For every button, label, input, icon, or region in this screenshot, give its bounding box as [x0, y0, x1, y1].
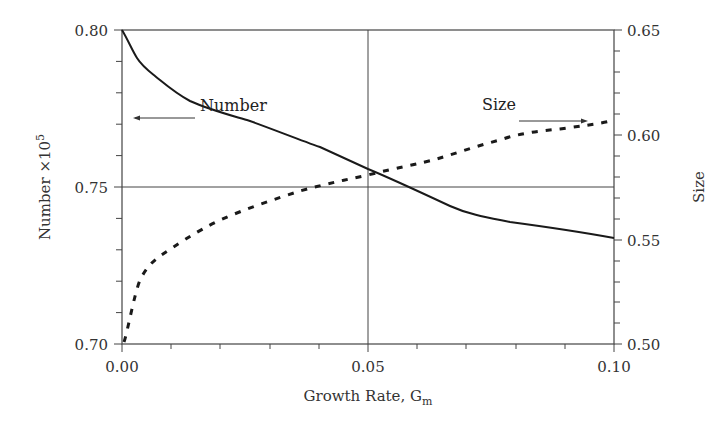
- bottom-tick-label: 0.10: [597, 358, 630, 376]
- bottom-tick-label: 0.05: [351, 358, 384, 376]
- bottom-axis-ticks: [122, 344, 614, 352]
- left-y-axis-label: Number ×105: [34, 134, 54, 240]
- x-axis-label-main: Growth Rate, G: [304, 387, 422, 405]
- left-tick-label: 0.70: [75, 336, 108, 354]
- left-y-axis-label-superscript: 5: [34, 134, 47, 141]
- right-axis-ticks: [614, 30, 622, 344]
- right-tick-label: 0.50: [627, 336, 660, 354]
- right-y-axis-label: Size: [690, 171, 708, 203]
- annotation-size: Size: [482, 95, 516, 114]
- left-y-axis-label-main: Number ×10: [36, 141, 54, 240]
- bottom-tick-label: 0.00: [105, 358, 138, 376]
- x-axis-label-subscript: m: [422, 395, 433, 408]
- right-tick-label: 0.55: [627, 232, 660, 250]
- right-tick-label: 0.65: [627, 22, 660, 40]
- left-tick-label: 0.80: [75, 22, 108, 40]
- left-axis-ticks: [114, 30, 122, 344]
- left-tick-label: 0.75: [75, 179, 108, 197]
- dual-axis-line-chart: Number Size 0.80 0.75 0.70 0.65 0.60 0.5…: [0, 0, 727, 431]
- series-size-line: [124, 120, 614, 342]
- x-axis-label: Growth Rate, Gm: [304, 387, 433, 408]
- annotation-number: Number: [200, 96, 267, 115]
- right-tick-label: 0.60: [627, 127, 660, 145]
- arrow-left-icon: [133, 116, 195, 121]
- arrow-right-icon: [519, 119, 588, 124]
